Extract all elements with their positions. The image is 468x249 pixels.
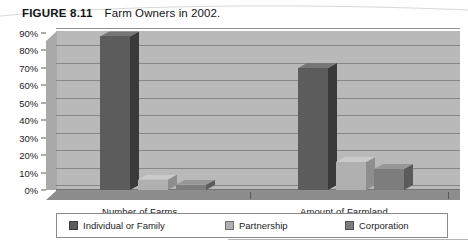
y-axis-tick-label: 30% bbox=[19, 132, 38, 143]
bar bbox=[100, 36, 130, 190]
legend-label: Partnership bbox=[239, 220, 288, 231]
bar-chart: 90%80%70%60%50%40%30%20%10%0% Number of … bbox=[0, 26, 468, 208]
legend-label: Corporation bbox=[359, 220, 409, 231]
bar-front-face bbox=[100, 36, 130, 190]
y-axis-tick-label: 60% bbox=[19, 80, 38, 91]
source-note bbox=[228, 241, 468, 249]
figure-container: FIGURE 8.11Farm Owners in 2002. 90%80%70… bbox=[0, 0, 468, 249]
bar-front-face bbox=[374, 169, 404, 190]
plot-area bbox=[46, 26, 460, 208]
legend-swatch bbox=[69, 221, 78, 230]
legend-swatch bbox=[345, 221, 354, 230]
y-axis-tick-label: 70% bbox=[19, 62, 38, 73]
legend-swatch bbox=[225, 221, 234, 230]
y-axis-tick-label: 10% bbox=[19, 167, 38, 178]
y-axis-tick-label: 90% bbox=[19, 28, 38, 39]
bar bbox=[298, 68, 328, 190]
bar-front-face bbox=[138, 180, 168, 190]
y-axis-tick-label: 80% bbox=[19, 45, 38, 56]
bar bbox=[176, 185, 206, 190]
y-axis: 90%80%70%60%50%40%30%20%10%0% bbox=[0, 26, 46, 208]
figure-title: Farm Owners in 2002. bbox=[105, 7, 221, 19]
x-axis-tick bbox=[250, 192, 251, 199]
footer-rule bbox=[228, 239, 468, 240]
x-axis-tick bbox=[448, 192, 449, 199]
legend-item: Individual or Family bbox=[69, 220, 165, 231]
bar bbox=[138, 180, 168, 190]
bar bbox=[336, 162, 366, 190]
legend-label: Individual or Family bbox=[83, 220, 165, 231]
chart-legend: Individual or FamilyPartnershipCorporati… bbox=[56, 213, 448, 238]
legend-item: Corporation bbox=[345, 220, 409, 231]
bar-front-face bbox=[176, 185, 206, 190]
y-axis-tick-label: 20% bbox=[19, 150, 38, 161]
figure-number: FIGURE 8.11 bbox=[22, 7, 93, 19]
bar-group-layer bbox=[46, 26, 460, 208]
bar-side-face bbox=[130, 31, 139, 190]
bar bbox=[374, 169, 404, 190]
bar-front-face bbox=[298, 68, 328, 190]
y-axis-tick-label: 50% bbox=[19, 97, 38, 108]
y-axis-tick-label: 0% bbox=[24, 185, 38, 196]
figure-caption: FIGURE 8.11Farm Owners in 2002. bbox=[22, 7, 220, 19]
legend-item: Partnership bbox=[225, 220, 288, 231]
y-axis-tick-label: 40% bbox=[19, 115, 38, 126]
bar-front-face bbox=[336, 162, 366, 190]
